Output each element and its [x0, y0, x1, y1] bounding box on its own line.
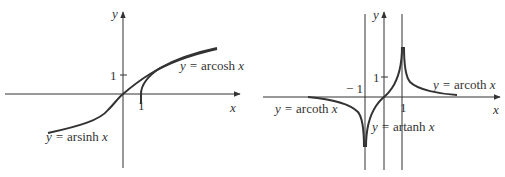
right-y-tick-label: 1	[373, 70, 380, 85]
left-y-axis-label: y	[110, 6, 118, 21]
left-x-tick-label: 1	[138, 98, 145, 113]
arcoth-left-label: y = arcoth x	[273, 101, 338, 116]
right-y-axis-label: y	[371, 7, 379, 22]
right-x-tick-neg1-label: − 1	[346, 81, 363, 96]
arcoth-right-label: y = arcoth x	[431, 77, 496, 92]
left-x-axis-label: x	[229, 100, 236, 115]
right-x-axis-label: x	[492, 102, 499, 117]
inverse-hyperbolic-functions-figure: y x 1 1 y = arsinh x y = arcosh x y x 1 …	[0, 0, 505, 177]
arcosh-label: y = arcosh x	[178, 58, 244, 73]
right-x-tick-1-label: 1	[400, 100, 407, 115]
figure-canvas: y x 1 1 y = arsinh x y = arcosh x y x 1 …	[0, 0, 505, 177]
arsinh-label: y = arsinh x	[44, 129, 108, 144]
right-plot: y x 1 − 1 1 y = arcoth x y = arcoth x y …	[263, 7, 500, 170]
artanh-label: y = artanh x	[370, 119, 435, 134]
left-plot: y x 1 1 y = arsinh x y = arcosh x	[5, 6, 244, 168]
left-y-tick-label: 1	[110, 68, 117, 83]
arcosh-curve	[141, 48, 217, 104]
